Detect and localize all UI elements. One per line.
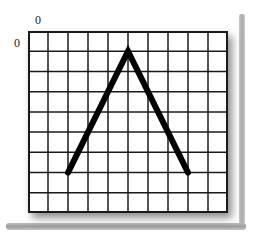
x-origin-label: 0 bbox=[35, 14, 41, 26]
grid-lines bbox=[28, 31, 228, 213]
grid-board bbox=[28, 31, 228, 213]
y-origin-label: 0 bbox=[14, 37, 20, 49]
right-frame-rail bbox=[239, 14, 245, 230]
bottom-frame-rail bbox=[6, 223, 246, 230]
